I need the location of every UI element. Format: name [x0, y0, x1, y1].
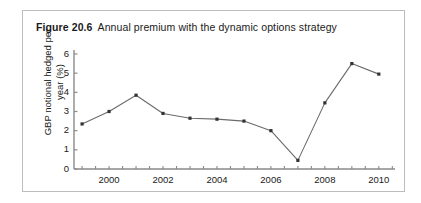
chart-plot-area: GBP notional hedged per year (%) 0123456…: [23, 11, 406, 193]
y-tick-label: 0: [53, 163, 69, 174]
data-point-marker: [350, 62, 353, 65]
data-point-marker: [80, 122, 83, 125]
data-point-marker: [323, 101, 326, 104]
figure-panel: Figure 20.6Annual premium with the dynam…: [22, 10, 405, 192]
y-tick-label: 2: [53, 124, 69, 135]
data-point-marker: [242, 119, 245, 122]
y-tick-label: 4: [53, 86, 69, 97]
y-tick-label: 1: [53, 143, 69, 154]
line-chart-svg: [23, 11, 406, 193]
data-point-marker: [188, 117, 191, 120]
y-tick-label: 6: [53, 48, 69, 59]
data-point-marker: [377, 73, 380, 76]
data-point-marker: [134, 94, 137, 97]
x-tick-label: 2006: [251, 174, 291, 185]
y-tick-label: 5: [53, 67, 69, 78]
x-tick-label: 2010: [359, 174, 399, 185]
data-point-marker: [161, 112, 164, 115]
data-point-marker: [215, 118, 218, 121]
x-tick-label: 2008: [305, 174, 345, 185]
data-point-marker: [296, 159, 299, 162]
x-tick-label: 2002: [143, 174, 183, 185]
data-point-marker: [269, 129, 272, 132]
x-tick-label: 2004: [197, 174, 237, 185]
data-point-marker: [107, 110, 110, 113]
y-tick-label: 3: [53, 105, 69, 116]
x-tick-label: 2000: [89, 174, 129, 185]
